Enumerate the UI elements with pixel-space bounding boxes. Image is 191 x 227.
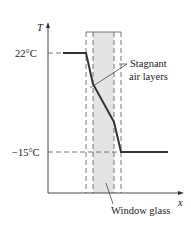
x-axis-arrow-icon (178, 191, 184, 195)
window-glass-temperature-diagram: T x 22°C −15°C Stagnant air layers Windo… (0, 0, 191, 227)
window-glass-region (93, 32, 114, 193)
high-temp-label: 22°C (15, 48, 37, 59)
y-axis-arrow-icon (46, 22, 50, 28)
window-glass-label: Window glass (111, 205, 170, 216)
x-axis-label: x (177, 197, 183, 208)
stagnant-air-label-line2: air layers (129, 71, 168, 82)
y-axis-label: T (37, 22, 44, 33)
stagnant-air-label-line1: Stagnant (130, 58, 167, 69)
low-temp-label: −15°C (12, 147, 40, 158)
